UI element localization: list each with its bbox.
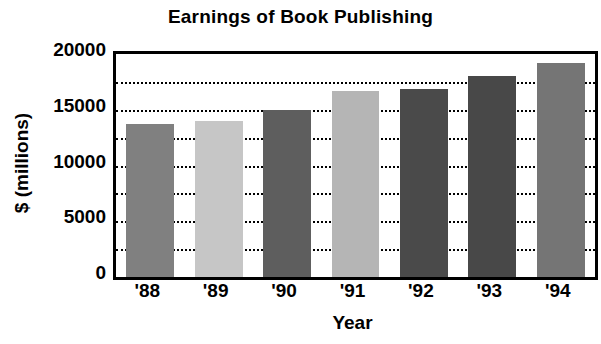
x-axis-tick-label: '93 <box>455 280 523 302</box>
x-axis-tick-label: '90 <box>250 280 318 302</box>
bar <box>537 63 585 277</box>
plot-area <box>113 51 598 280</box>
x-axis-tick-label: '94 <box>524 280 592 302</box>
bar <box>468 76 516 277</box>
bar <box>400 89 448 277</box>
y-axis-tick-label: 20000 <box>6 39 106 61</box>
x-axis-tick-label: '91 <box>318 280 386 302</box>
x-axis-tick-label: '89 <box>181 280 249 302</box>
y-axis-tick-label: 0 <box>6 262 106 284</box>
bar <box>126 124 174 277</box>
y-axis-tick-labels: 05000100001500020000 <box>0 0 106 344</box>
bar <box>263 110 311 277</box>
x-axis-label: Year <box>113 312 592 334</box>
x-axis-tick-labels: '88'89'90'91'92'93'94 <box>113 280 592 310</box>
bar-chart: Earnings of Book Publishing $ (millions)… <box>0 0 601 344</box>
x-axis-tick-label: '88 <box>113 280 181 302</box>
x-axis-tick-label: '92 <box>387 280 455 302</box>
bar <box>332 91 380 277</box>
gridline <box>116 82 595 84</box>
y-axis-tick-label: 10000 <box>6 151 106 173</box>
y-axis-tick-label: 15000 <box>6 95 106 117</box>
y-axis-tick-label: 5000 <box>6 206 106 228</box>
bar <box>195 121 243 277</box>
plot-inner <box>116 54 595 277</box>
